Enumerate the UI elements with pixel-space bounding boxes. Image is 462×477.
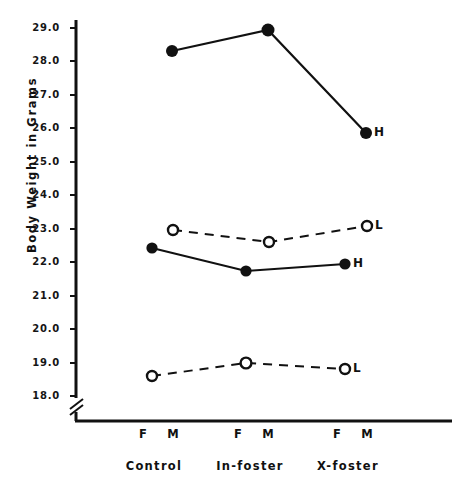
x-tick-control-f: F — [133, 427, 153, 441]
x-group-xfoster: X-foster — [288, 459, 408, 473]
x-tick-infoster-f: F — [228, 427, 248, 441]
data-point — [339, 258, 350, 269]
data-point — [240, 265, 251, 276]
series-label-top-h: H — [374, 125, 384, 139]
series-top-h — [166, 24, 372, 140]
series-mid-h — [146, 242, 350, 276]
plot-area — [0, 0, 462, 477]
data-point — [340, 364, 350, 374]
data-point — [147, 371, 157, 381]
data-point — [168, 225, 178, 235]
series-upper-l — [168, 221, 372, 247]
x-tick-xfoster-m: M — [357, 427, 377, 441]
data-point — [360, 127, 372, 139]
data-point — [166, 45, 178, 57]
data-point — [241, 358, 252, 369]
x-tick-control-m: M — [163, 427, 183, 441]
series-top-h-line — [172, 30, 366, 133]
x-tick-xfoster-f: F — [327, 427, 347, 441]
data-point — [264, 237, 274, 247]
data-point — [146, 242, 157, 253]
data-point — [362, 221, 372, 231]
series-label-mid-h: H — [353, 256, 363, 270]
series-label-lower-l: L — [353, 361, 361, 375]
chart-figure: Body Weight in Grams 29.0 28.0 27.0 26.0… — [0, 0, 462, 477]
series-label-upper-l: L — [375, 218, 383, 232]
data-point — [262, 24, 275, 37]
x-tick-infoster-m: M — [258, 427, 278, 441]
series-lower-l — [147, 358, 350, 381]
